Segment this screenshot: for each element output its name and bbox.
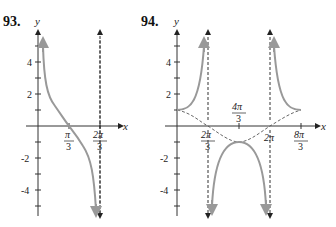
svg-text:3: 3 (236, 113, 241, 124)
curve-93 (43, 46, 96, 210)
x-axis-label: x (320, 120, 326, 132)
svg-text:2π: 2π (93, 129, 104, 140)
svg-text:-4: -4 (21, 185, 29, 196)
svg-text:-2: -2 (21, 153, 29, 164)
curve-94-left (177, 46, 204, 110)
svg-text:4: 4 (166, 57, 171, 68)
svg-text:π: π (65, 129, 71, 140)
svg-text:3: 3 (66, 141, 71, 152)
x-axis-label: x (122, 120, 128, 132)
svg-text:4π: 4π (232, 101, 243, 112)
svg-text:8π: 8π (294, 129, 305, 140)
curve-94-middle (212, 142, 266, 206)
graph-93: y x 4 2 -2 -4 π 3 2π 3 (21, 15, 128, 216)
svg-text:3: 3 (298, 141, 303, 152)
graphs: y x 4 2 -2 -4 π 3 2π 3 y x (0, 0, 336, 227)
y-axis-label: y (173, 15, 179, 27)
svg-text:-4: -4 (160, 185, 168, 196)
svg-text:2: 2 (166, 89, 171, 100)
y-axis-label: y (34, 15, 40, 27)
svg-text:4: 4 (27, 57, 32, 68)
svg-text:-2: -2 (160, 153, 168, 164)
curve-94-right (274, 46, 301, 110)
svg-text:2: 2 (27, 89, 32, 100)
svg-text:2π: 2π (201, 129, 212, 140)
graph-94: y x 4 2 -2 -4 2π 3 4π 3 2π 8π 3 (160, 15, 326, 216)
